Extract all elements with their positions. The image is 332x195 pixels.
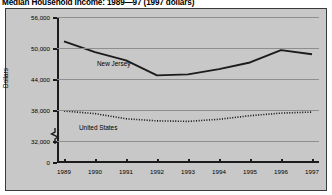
series-label-united-states: United States	[79, 124, 117, 131]
x-tick-label: 1992	[150, 168, 164, 175]
y-tick-label: 32,000	[31, 138, 50, 145]
x-tick-label: 1991	[119, 168, 133, 175]
series-line	[64, 111, 312, 121]
plot-area	[57, 17, 319, 163]
y-tick-mark	[53, 17, 57, 19]
gridline	[57, 17, 319, 18]
y-tick-mark	[53, 48, 57, 50]
y-tick-label: 38,000	[31, 107, 50, 114]
x-tick-mark	[64, 159, 66, 163]
series-line	[64, 41, 312, 75]
y-tick-label: 56,000	[31, 14, 50, 21]
y-tick-label: 44,000	[31, 76, 50, 83]
gridline	[57, 141, 319, 142]
x-tick-mark	[95, 159, 97, 163]
y-tick-label: 50,000	[31, 45, 50, 52]
x-tick-label: 1989	[57, 168, 71, 175]
x-tick-mark	[126, 159, 128, 163]
x-tick-mark	[219, 159, 221, 163]
y-tick-mark	[53, 162, 57, 164]
y-tick-mark	[53, 79, 57, 81]
x-tick-label: 1995	[243, 168, 257, 175]
x-tick-label: 1993	[181, 168, 195, 175]
x-tick-label: 1990	[88, 168, 102, 175]
x-tick-mark	[281, 159, 283, 163]
x-tick-label: 1997	[305, 168, 319, 175]
y-tick-label: 0	[47, 159, 50, 166]
gridline	[57, 79, 319, 80]
x-tick-mark	[157, 159, 159, 163]
y-tick-mark	[53, 141, 57, 143]
x-tick-label: 1996	[274, 168, 288, 175]
x-tick-mark	[250, 159, 252, 163]
gridline	[57, 48, 319, 49]
x-tick-label: 1994	[212, 168, 226, 175]
gridline	[57, 110, 319, 111]
x-tick-mark	[312, 159, 314, 163]
series-label-new-jersey: New Jersey	[97, 60, 130, 67]
x-tick-mark	[188, 159, 190, 163]
y-tick-mark	[53, 110, 57, 112]
chart-figure: Median Household Income: 1989—97 (1997 d…	[0, 0, 332, 195]
y-axis-label: Dollars	[2, 68, 9, 88]
chart-title: Median Household Income: 1989—97 (1997 d…	[2, 0, 332, 7]
